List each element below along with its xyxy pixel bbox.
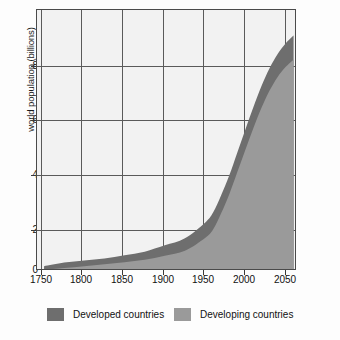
x-tick-label-1850: 1850 <box>102 274 142 285</box>
x-tick-label-1950: 1950 <box>183 274 223 285</box>
chart-figure: world population (billions) 8 6 4 2 0 17… <box>0 0 340 340</box>
area-developing-countries <box>44 60 294 270</box>
x-tick-label-1750: 1750 <box>21 274 61 285</box>
chart-legend: Developed countries Developing countries <box>0 306 340 330</box>
x-tick-label-1800: 1800 <box>61 274 101 285</box>
legend-swatch-developing <box>174 308 191 321</box>
plot-area <box>36 9 296 270</box>
y-axis-title: world population (billions) <box>25 0 36 170</box>
legend-label-developing: Developing countries <box>200 309 293 320</box>
x-tick-label-2050: 2050 <box>265 274 305 285</box>
legend-label-developed: Developed countries <box>73 309 164 320</box>
x-tick-label-2000: 2000 <box>224 274 264 285</box>
legend-item-developed: Developed countries <box>47 308 164 321</box>
x-tick-label-1900: 1900 <box>143 274 183 285</box>
legend-swatch-developed <box>47 308 64 321</box>
stacked-area-series <box>36 9 296 270</box>
legend-item-developing: Developing countries <box>174 308 293 321</box>
